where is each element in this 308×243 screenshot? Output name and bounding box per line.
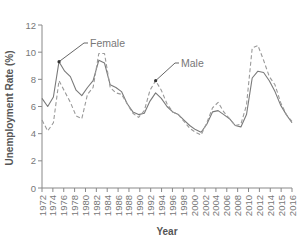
y-tick-label: 0 <box>31 183 36 194</box>
x-tick-label: 2010 <box>243 195 254 216</box>
x-tick-label: 1990 <box>134 195 145 216</box>
y-axis: 024681012 <box>25 20 42 194</box>
y-tick-label: 4 <box>31 128 36 139</box>
y-tick-label: 6 <box>31 101 36 112</box>
x-tick-label: 1986 <box>113 195 124 216</box>
male-series-label: Male <box>181 57 204 69</box>
female-series-line <box>42 60 292 132</box>
x-tick-label: 1998 <box>178 195 189 216</box>
x-tick-label: 2015 <box>276 195 287 216</box>
y-tick-label: 10 <box>25 47 36 58</box>
x-tick-label: 1984 <box>102 195 113 216</box>
x-tick-label: 1996 <box>167 195 178 216</box>
x-tick-label: 2006 <box>221 195 232 216</box>
x-axis: 1972197419761978198019821984198619881990… <box>37 188 298 216</box>
male-series-line <box>42 45 292 135</box>
x-tick-label: 1978 <box>69 195 80 216</box>
unemployment-line-chart: 024681012 197219741976197819801982198419… <box>0 0 308 243</box>
y-axis-title: Unemployment Rate (%) <box>4 50 15 165</box>
x-tick-label: 2016 <box>287 195 298 216</box>
x-axis-title: Year <box>156 226 177 237</box>
x-tick-label: 1988 <box>123 195 134 216</box>
series-annotations: FemaleMale <box>57 37 203 83</box>
y-tick-label: 12 <box>25 20 36 31</box>
x-tick-label: 1980 <box>80 195 91 216</box>
x-tick-label: 1972 <box>37 195 48 216</box>
series-lines <box>42 45 292 135</box>
x-tick-label: 2008 <box>232 195 243 216</box>
x-tick-label: 1994 <box>156 195 167 216</box>
x-tick-label: 2004 <box>210 195 221 216</box>
y-tick-label: 8 <box>31 74 36 85</box>
y-tick-label: 2 <box>31 155 36 166</box>
x-tick-label: 2002 <box>200 195 211 216</box>
female-series-label: Female <box>90 37 125 49</box>
x-tick-label: 2014 <box>265 195 276 216</box>
x-tick-label: 1974 <box>47 195 58 216</box>
x-tick-label: 1982 <box>91 195 102 216</box>
x-tick-label: 1992 <box>145 195 156 216</box>
x-tick-label: 2000 <box>189 195 200 216</box>
x-tick-label: 2012 <box>254 195 265 216</box>
x-tick-label: 1976 <box>58 195 69 216</box>
